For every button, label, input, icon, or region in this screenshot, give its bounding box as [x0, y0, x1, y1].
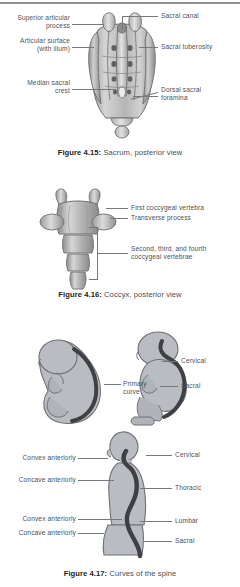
- bracket-coccygeal-bottom: [89, 279, 98, 280]
- leader-transverse-process: [110, 218, 128, 219]
- leader-primary-curve: [104, 384, 121, 385]
- figure-4-16-caption: Figure 4.16: Coccyx, posterior view: [0, 290, 240, 299]
- adult-spine-curves-illustration: [96, 429, 168, 559]
- leader-convex-anteriorly-lumbar: [78, 519, 122, 520]
- figure-4-15-number: Figure 4.15:: [58, 148, 102, 157]
- figure-4-15-text: Sacrum, posterior view: [101, 148, 182, 157]
- leader-adult-thoracic: [140, 488, 172, 489]
- leader-coccygeal-vertebrae: [97, 253, 128, 254]
- leader-adult-cervical: [146, 455, 172, 456]
- leader-adult-sacral: [144, 541, 172, 542]
- leader-articular-surface: [72, 47, 94, 48]
- figure-4-16-text: Coccyx, posterior view: [102, 290, 182, 299]
- leader-concave-anteriorly-thoracic: [78, 480, 114, 481]
- leader-sacral-canal: [122, 16, 158, 17]
- leader-median-sacral-crest: [72, 89, 116, 90]
- label-adult-lumbar: Lumbar: [175, 517, 237, 525]
- sacrum-illustration: [84, 12, 160, 140]
- label-sacral-tuberosity: Sacral tuberosity: [161, 43, 239, 51]
- fetus-primary-curve-illustration: [28, 335, 116, 427]
- label-convex-anteriorly-cervical: Convex anteriorly: [2, 454, 76, 462]
- figure-page: Superior articular process Articular sur…: [0, 0, 240, 587]
- label-dorsal-sacral-foramina: Dorsal sacral foramina: [161, 86, 239, 102]
- label-adult-sacral: Sacral: [175, 537, 237, 545]
- label-coccygeal-vertebrae-2-4: Second, third, and fourth coccygeal vert…: [131, 245, 239, 261]
- label-adult-thoracic: Thoracic: [175, 484, 237, 492]
- label-median-sacral-crest: Median sacral crest: [2, 79, 70, 95]
- leader-first-coccygeal-vertebra: [106, 208, 128, 209]
- leader-convex-anteriorly-cervical: [78, 458, 108, 459]
- label-primary-curve: Primary curve: [123, 380, 169, 396]
- coccyx-illustration: [40, 188, 116, 296]
- leader-sacral-canal-stem: [122, 16, 123, 30]
- label-superior-articular-process: Superior articular process: [2, 14, 70, 30]
- label-sacral-canal: Sacral canal: [161, 12, 239, 20]
- leader-concave-anteriorly-sacral: [78, 533, 104, 534]
- label-transverse-process: Transverse process: [131, 214, 239, 222]
- label-convex-anteriorly-lumbar: Convex anteriorly: [2, 515, 76, 523]
- label-fetus-cervical: Cervical: [181, 357, 237, 365]
- figure-4-17-number: Figure 4.17:: [64, 569, 108, 578]
- label-concave-anteriorly-sacral: Concave anteriorly: [2, 529, 76, 537]
- figure-4-16-number: Figure 4.16:: [58, 290, 102, 299]
- label-concave-anteriorly-thoracic: Concave anteriorly: [2, 476, 76, 484]
- label-adult-cervical: Cervical: [175, 451, 237, 459]
- leader-sacral-tuberosity: [139, 47, 158, 48]
- leader-adult-lumbar: [140, 521, 172, 522]
- label-fetus-sacral: Sacral: [181, 382, 237, 390]
- label-articular-surface: Articular surface (with ilium): [2, 37, 70, 53]
- figure-4-17-caption: Figure 4.17: Curves of the spine: [0, 569, 240, 578]
- figure-4-17-text: Curves of the spine: [107, 569, 176, 578]
- figure-4-15-caption: Figure 4.15: Sacrum, posterior view: [0, 148, 240, 157]
- bracket-coccygeal-top: [89, 227, 98, 228]
- leader-superior-articular-process: [72, 24, 104, 25]
- leader-fetus-cervical: [162, 361, 178, 362]
- label-first-coccygeal-vertebra: First coccygeal vertebra: [131, 204, 239, 212]
- figure-4-17: Primary curve Cervical Sacral: [0, 325, 240, 587]
- figure-4-16: First coccygeal vertebra Transverse proc…: [0, 180, 240, 308]
- figure-4-15: Superior articular process Articular sur…: [0, 0, 240, 168]
